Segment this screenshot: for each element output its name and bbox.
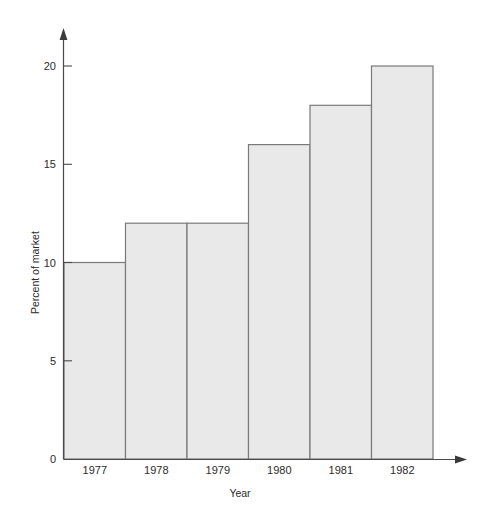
x-tick-label-1978: 1978 [144,464,168,476]
y-tick-label-10: 10 [44,257,56,269]
y-tick-label-20: 20 [44,60,56,72]
y-axis-title: Percent of market [29,231,41,314]
x-tick-label-1981: 1981 [329,464,353,476]
x-axis-title: Year [229,487,251,499]
y-tick-label-0: 0 [50,453,56,465]
x-tick-label-1980: 1980 [267,464,291,476]
bar-1980 [249,145,311,459]
bar-1978 [126,223,188,459]
chart-canvas: 05101520 197719781979198019811982 Percen… [0,0,480,521]
bar-1982 [372,66,434,459]
y-tick-label-15: 15 [44,158,56,170]
bar-1977 [64,263,126,460]
x-tick-label-1977: 1977 [83,464,107,476]
x-tick-label-1982: 1982 [390,464,414,476]
x-tick-label-1979: 1979 [206,464,230,476]
bar-1979 [187,223,249,459]
y-tick-label-5: 5 [50,355,56,367]
bar-1981 [310,105,372,459]
bar-chart-figure: 05101520 197719781979198019811982 Percen… [0,0,480,521]
